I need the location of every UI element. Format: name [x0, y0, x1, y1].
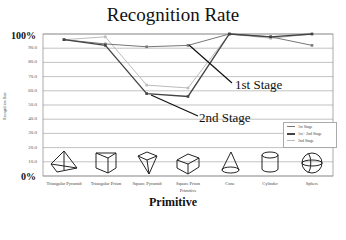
square-pyramid-icon — [138, 152, 157, 174]
triangular-prism-icon — [96, 153, 116, 173]
data-point — [63, 38, 66, 41]
y-tick-100: 100% — [6, 30, 36, 41]
y-axis-label: Recognition Rate — [2, 92, 7, 120]
y-tick-80: 80.0 — [7, 59, 37, 64]
y-tick-70: 70.0 — [7, 74, 37, 79]
legend-swatch — [287, 126, 295, 127]
y-tick-30: 30.0 — [7, 130, 37, 135]
annotation-2nd-stage: 2nd Stage — [199, 110, 251, 126]
x-axis-label: Primitive — [0, 195, 346, 210]
annotation-arrows — [151, 45, 232, 116]
gridlines — [43, 34, 333, 176]
legend-swatch — [287, 140, 295, 141]
legend-label: 1st Stage — [298, 124, 313, 129]
cone-icon — [222, 152, 239, 173]
data-point — [269, 36, 272, 39]
data-point — [104, 44, 107, 47]
annotation-1st-stage: 1st Stage — [235, 77, 282, 93]
data-point — [187, 95, 190, 98]
legend-item-2nd-stage: 2nd Stage — [284, 137, 336, 144]
data-point — [145, 92, 148, 95]
data-point — [187, 87, 190, 90]
y-tick-50: 50.0 — [7, 102, 37, 107]
legend-label: 2nd Stage — [298, 138, 314, 143]
legend-label: 1st+ 2nd Stage — [298, 131, 322, 136]
sphere-icon — [302, 153, 322, 173]
data-point — [228, 33, 231, 36]
legend: 1st Stage 1st+ 2nd Stage 2nd Stage — [283, 122, 337, 148]
y-tick-10: 10.0 — [7, 159, 37, 164]
primitive-icons — [51, 151, 322, 174]
x-sublabel: Primitive — [163, 188, 213, 193]
legend-item-1st-2nd-stage: 1st+ 2nd Stage — [284, 130, 336, 137]
data-point — [311, 33, 314, 36]
data-point — [311, 44, 314, 47]
y-tick-90: 90.0 — [7, 45, 37, 50]
data-point — [145, 45, 148, 48]
y-tick-0: 0% — [6, 171, 36, 182]
y-tick-20: 20.0 — [7, 145, 37, 150]
legend-item-1st-stage: 1st Stage — [284, 123, 336, 130]
data-point — [104, 36, 107, 39]
x-tick-sphere: Sphere — [287, 181, 337, 186]
legend-swatch — [287, 133, 295, 135]
y-tick-40: 40.0 — [7, 116, 37, 121]
data-point — [145, 84, 148, 87]
square-prism-icon — [177, 154, 199, 174]
y-tick-60: 60.0 — [7, 88, 37, 93]
